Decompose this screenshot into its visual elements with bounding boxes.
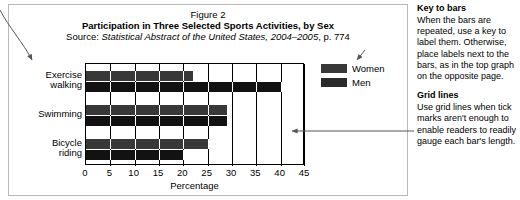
gridline-45 <box>304 116 305 126</box>
annotation-body: When the bars are repeated, use a key to… <box>417 15 518 82</box>
category-label-0: Exercisewalking <box>11 70 85 91</box>
x-tick-label-40: 40 <box>274 167 285 178</box>
annotation-key-to-bars: Key to bars When the bars are repeated, … <box>417 3 518 82</box>
plot-area <box>85 63 304 165</box>
gridline-45 <box>304 126 305 139</box>
source-citation: Statistical Abstract of the United State… <box>101 31 318 42</box>
gridline-45 <box>304 64 305 71</box>
chart-legend: Women Men <box>321 63 405 91</box>
x-axis-ticks: 051015202530354045 <box>85 167 304 181</box>
figure-number: Figure 2 <box>9 9 407 20</box>
figure-panel: Figure 2 Participation in Three Selected… <box>8 4 408 196</box>
gridline-45 <box>304 105 305 115</box>
x-tick-label-25: 25 <box>201 167 212 178</box>
annotation-heading: Key to bars <box>417 3 518 14</box>
figure-caption: Figure 2 Participation in Three Selected… <box>9 9 407 43</box>
legend-swatch-men <box>321 78 347 87</box>
legend-swatch-women <box>321 64 347 73</box>
x-tick-label-5: 5 <box>107 167 112 178</box>
legend-label-women: Women <box>352 63 385 74</box>
category-label-1: Swimming <box>11 109 85 120</box>
gridline-45 <box>304 139 305 149</box>
bar-men-2 <box>86 150 183 160</box>
annotation-column: Key to bars When the bars are repeated, … <box>414 0 520 200</box>
x-tick-label-0: 0 <box>82 167 87 178</box>
gridline-45 <box>304 71 305 81</box>
x-tick-label-30: 30 <box>226 167 237 178</box>
bar-chart: ExercisewalkingSwimmingBicycleriding 051… <box>9 55 409 197</box>
x-tick-label-15: 15 <box>153 167 164 178</box>
gridline-45 <box>304 160 305 167</box>
source-prefix: Source: <box>66 31 101 42</box>
gridline-45 <box>304 82 305 92</box>
figure-source: Source: Statistical Abstract of the Unit… <box>9 31 407 42</box>
bar-women-0 <box>86 71 193 81</box>
gridline-45 <box>304 115 305 116</box>
bar-men-0 <box>86 82 281 92</box>
legend-label-men: Men <box>352 77 370 88</box>
x-tick-label-20: 20 <box>177 167 188 178</box>
gridline-45 <box>304 92 305 105</box>
x-tick-label-35: 35 <box>250 167 261 178</box>
gridline-45 <box>304 150 305 160</box>
gridline-45 <box>304 81 305 82</box>
bar-women-2 <box>86 139 208 149</box>
source-page: , p. 774 <box>318 31 350 42</box>
figure-title: Participation in Three Selected Sports A… <box>9 20 407 31</box>
x-tick-label-10: 10 <box>128 167 139 178</box>
bar-men-1 <box>86 116 227 126</box>
bar-women-1 <box>86 105 227 115</box>
gridline-45 <box>304 149 305 150</box>
x-axis-title: Percentage <box>85 180 304 191</box>
annotation-body: Use grid lines when tick marks aren't en… <box>417 102 518 147</box>
category-axis-labels: ExercisewalkingSwimmingBicycleriding <box>9 63 85 165</box>
legend-item-men: Men <box>321 77 405 88</box>
annotation-grid-lines: Grid lines Use grid lines when tick mark… <box>417 90 518 147</box>
x-tick-label-45: 45 <box>299 167 310 178</box>
legend-item-women: Women <box>321 63 405 74</box>
bars-layer <box>86 64 303 164</box>
annotation-heading: Grid lines <box>417 90 518 101</box>
category-label-2: Bicycleriding <box>11 138 85 159</box>
